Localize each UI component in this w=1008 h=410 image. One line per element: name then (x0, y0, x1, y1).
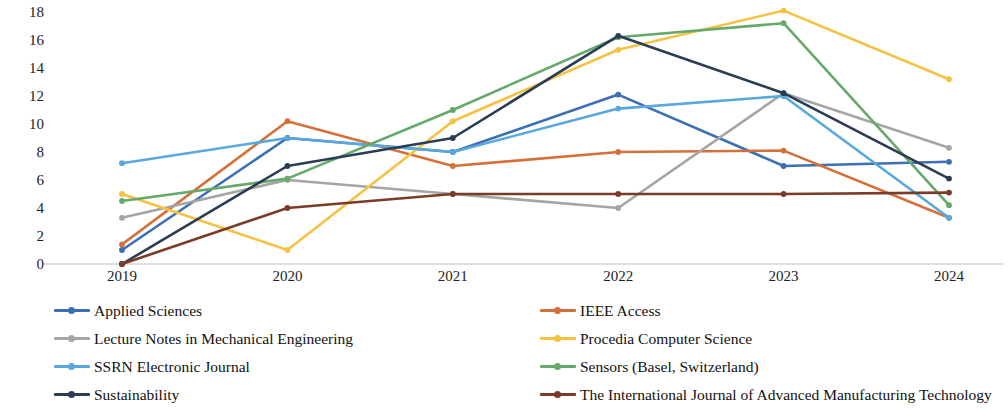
legend-label: IEEE Access (580, 302, 660, 319)
data-point (781, 148, 787, 154)
data-point (615, 47, 621, 53)
legend-item-ieee-access[interactable]: IEEE Access (508, 296, 1008, 324)
series-line (122, 193, 949, 264)
legend-label: Procedia Computer Science (580, 330, 752, 347)
legend-swatch-icon (540, 361, 576, 371)
data-point (781, 90, 787, 96)
series-lecture-notes-in-mechanical-engineering (119, 90, 952, 220)
legend-item-the-international-journal-of-advanced-manufacturing-technology[interactable]: The International Journal of Advanced Ma… (508, 380, 1008, 408)
data-point (285, 118, 291, 124)
line-chart: 024681012141618 201920202021202220232024… (0, 0, 1008, 410)
legend-item-sustainability[interactable]: Sustainability (0, 380, 508, 408)
legend-item-lecture-notes-in-mechanical-engineering[interactable]: Lecture Notes in Mechanical Engineering (0, 324, 508, 352)
data-point (946, 202, 952, 208)
data-point (946, 215, 952, 221)
y-axis-tick-label: 10 (0, 117, 44, 132)
legend-label: Lecture Notes in Mechanical Engineering (94, 330, 353, 347)
data-point (615, 92, 621, 98)
data-point (285, 205, 291, 211)
data-point (119, 242, 125, 248)
legend-swatch-icon (54, 333, 90, 343)
legend-label: SSRN Electronic Journal (94, 358, 250, 375)
legend-swatch-icon (540, 389, 576, 399)
data-point (946, 76, 952, 82)
data-point (781, 20, 787, 26)
data-point (781, 8, 787, 14)
series-line (122, 95, 949, 250)
data-point (285, 163, 291, 169)
data-point (450, 191, 456, 197)
data-point (119, 160, 125, 166)
data-point (615, 106, 621, 112)
data-point (615, 205, 621, 211)
x-axis-tick-label: 2021 (413, 268, 493, 284)
legend-label: Applied Sciences (94, 302, 202, 319)
data-point (615, 149, 621, 155)
data-point (119, 215, 125, 221)
legend-label: The International Journal of Advanced Ma… (580, 386, 992, 403)
data-point (450, 118, 456, 124)
y-axis-tick-label: 2 (0, 229, 44, 244)
data-point (285, 247, 291, 253)
data-point (946, 190, 952, 196)
x-axis-tick-label: 2019 (82, 268, 162, 284)
data-point (119, 261, 125, 267)
series-line (122, 121, 949, 244)
legend-item-procedia-computer-science[interactable]: Procedia Computer Science (508, 324, 1008, 352)
data-point (946, 176, 952, 182)
data-point (285, 135, 291, 141)
data-point (450, 135, 456, 141)
y-axis-tick-label: 16 (0, 33, 44, 48)
data-point (450, 163, 456, 169)
data-point (450, 107, 456, 113)
series-sustainability (119, 33, 952, 267)
y-axis-tick-label: 14 (0, 61, 44, 76)
plot-area (0, 0, 1008, 290)
x-axis-tick-label: 2023 (744, 268, 824, 284)
y-axis-tick-label: 12 (0, 89, 44, 104)
legend-item-applied-sciences[interactable]: Applied Sciences (0, 296, 508, 324)
legend-item-sensors-basel-switzerland[interactable]: Sensors (Basel, Switzerland) (508, 352, 1008, 380)
chart-legend: Applied SciencesIEEE AccessLecture Notes… (0, 296, 1008, 410)
data-point (781, 163, 787, 169)
data-point (615, 191, 621, 197)
y-axis-tick-label: 4 (0, 201, 44, 216)
series-ieee-access (119, 118, 952, 247)
x-axis-tick-label: 2022 (578, 268, 658, 284)
y-axis-tick-label: 18 (0, 5, 44, 20)
data-point (946, 159, 952, 165)
legend-label: Sustainability (94, 386, 179, 403)
y-axis-tick-label: 0 (0, 257, 44, 272)
data-point (450, 149, 456, 155)
data-point (615, 33, 621, 39)
data-point (119, 191, 125, 197)
legend-swatch-icon (540, 333, 576, 343)
legend-item-ssrn-electronic-journal[interactable]: SSRN Electronic Journal (0, 352, 508, 380)
legend-swatch-icon (54, 389, 90, 399)
legend-label: Sensors (Basel, Switzerland) (580, 358, 759, 375)
legend-swatch-icon (540, 305, 576, 315)
y-axis-tick-label: 6 (0, 173, 44, 188)
x-axis-tick-label: 2024 (909, 268, 989, 284)
data-point (946, 145, 952, 151)
data-point (119, 198, 125, 204)
data-point (119, 247, 125, 253)
data-point (781, 191, 787, 197)
x-axis-tick-label: 2020 (247, 268, 327, 284)
y-axis-tick-label: 8 (0, 145, 44, 160)
legend-swatch-icon (54, 305, 90, 315)
chart-canvas (0, 0, 1008, 290)
series-line (122, 93, 949, 218)
legend-swatch-icon (54, 361, 90, 371)
data-point (285, 176, 291, 182)
